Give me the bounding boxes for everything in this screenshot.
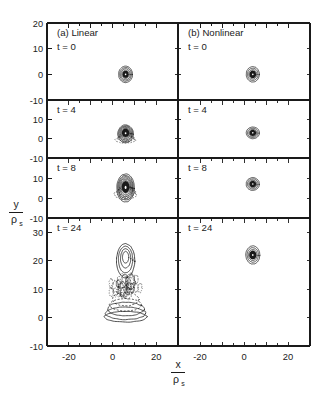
y-tick-label: 0: [38, 194, 43, 204]
x-tick-label: 20: [283, 351, 293, 362]
time-label: t = 8: [188, 162, 207, 173]
contour-core-center: [252, 254, 254, 256]
contour-blob: [246, 127, 259, 139]
contour-line: [130, 283, 134, 292]
y-tick-label: -10: [30, 342, 43, 352]
contour-core-center: [252, 73, 254, 75]
time-label: t = 0: [57, 41, 76, 52]
contour-core-center: [125, 132, 127, 134]
contour-blob: [246, 178, 259, 191]
x-tick-label: 20: [151, 351, 161, 362]
x-axis-denominator: ρ: [173, 373, 179, 385]
x-tick-label: -20: [62, 351, 76, 362]
contour-blob: [246, 246, 260, 264]
contour-blob: [114, 174, 137, 202]
x-tick-label: -20: [193, 351, 207, 362]
contour-line: [138, 283, 142, 293]
y-tick-label: -10: [30, 96, 43, 106]
contour-line: [122, 251, 128, 263]
y-tick-label: 10: [33, 115, 43, 125]
contour-blob: [246, 67, 259, 82]
y-tick-label: 30: [33, 228, 43, 238]
x-axis-numerator: x: [175, 358, 181, 370]
contour-line: [130, 274, 135, 285]
contour-blob: [115, 125, 136, 143]
panel-labels: (a) Lineart = 0t = 4t = 8t = 24(b) Nonli…: [57, 27, 244, 233]
y-tick-label: 0: [38, 70, 43, 80]
contour-core-center: [252, 132, 254, 134]
contour-figure: -1001020-10010-10010-100102030-20020-200…: [0, 0, 329, 400]
y-tick-label: 20: [33, 256, 43, 266]
time-label: t = 4: [57, 104, 77, 115]
contour-line: [112, 292, 139, 306]
time-label: t = 8: [57, 162, 76, 173]
y-tick-label: -10: [30, 154, 43, 164]
contour-core-center: [125, 73, 127, 75]
contour-line: [109, 287, 113, 297]
y-tick-label: 10: [33, 44, 43, 54]
y-tick-label: 20: [33, 19, 43, 29]
x-tick-label: 0: [241, 351, 246, 362]
column-title: (b) Nonlinear: [188, 27, 244, 38]
y-tick-label: 10: [33, 174, 43, 184]
contour-line: [109, 299, 141, 312]
x-axis-denominator-sub: s: [181, 380, 185, 387]
time-label: t = 4: [188, 104, 208, 115]
y-tick-label: 0: [38, 313, 43, 323]
time-label: t = 0: [188, 41, 207, 52]
x-tick-label: 0: [110, 351, 115, 362]
axis-ticks: -1001020-10010-10010-100102030-20020-200…: [30, 19, 310, 362]
y-axis-numerator: y: [13, 198, 19, 210]
column-title: (a) Linear: [57, 27, 99, 38]
y-tick-label: -10: [30, 214, 43, 224]
figure-canvas: -1001020-10010-10010-100102030-20020-200…: [0, 0, 329, 400]
contour-blob: [104, 243, 147, 322]
y-tick-label: 0: [38, 134, 43, 144]
contour-blob: [119, 66, 133, 83]
time-label: t = 24: [188, 222, 213, 233]
contour-core-center: [125, 186, 127, 189]
y-axis-denominator-sub: s: [19, 220, 23, 227]
time-label: t = 24: [57, 222, 82, 233]
contour-blobs: [104, 66, 260, 322]
y-tick-label: 10: [33, 285, 43, 295]
plot-frame: [47, 23, 310, 346]
contour-core-center: [252, 183, 254, 185]
y-axis-denominator: ρ: [11, 213, 17, 225]
